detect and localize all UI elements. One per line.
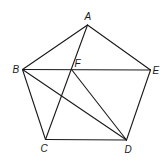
- label-E: E: [153, 65, 160, 76]
- label-C: C: [41, 143, 49, 154]
- label-D: D: [125, 144, 132, 155]
- label-F: F: [75, 58, 82, 69]
- segment-DE: [127, 70, 151, 140]
- pentagon-diagram: A B F E C D: [0, 0, 166, 164]
- segment-FD: [72, 70, 127, 141]
- label-A: A: [84, 11, 92, 22]
- segment-BC: [23, 70, 46, 140]
- label-B: B: [13, 64, 20, 75]
- segment-CD: [46, 140, 127, 141]
- segments: [23, 25, 151, 140]
- segment-BE: [23, 70, 151, 71]
- segment-AE: [88, 25, 151, 70]
- labels: A B F E C D: [13, 11, 160, 155]
- segment-BD: [23, 70, 127, 141]
